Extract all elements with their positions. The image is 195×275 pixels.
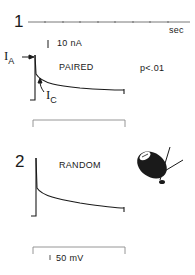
ic-subscript: C <box>50 95 57 105</box>
ic-label: IC <box>46 88 57 105</box>
ia-arrow-icon <box>22 55 34 59</box>
panel-2-number: 2 <box>15 153 24 170</box>
time-unit-label: sec <box>169 26 184 35</box>
snail-icon <box>132 146 183 184</box>
panel-2-condition-label: RANDOM <box>59 161 101 170</box>
panel-1-number: 1 <box>14 13 23 30</box>
time-axis <box>28 21 190 23</box>
panel-1-condition-label: PAIRED <box>59 63 94 72</box>
figure-canvas <box>0 0 195 275</box>
current-scale-label: I 10 nA10 nA <box>57 39 82 48</box>
ia-subscript: A <box>8 56 14 66</box>
significance-label: p<.01 <box>140 64 164 73</box>
ia-label: IA <box>4 49 14 66</box>
voltage-scale-label: 50 mVı 50 mV <box>56 254 84 263</box>
voltage-step-1 <box>33 120 125 127</box>
